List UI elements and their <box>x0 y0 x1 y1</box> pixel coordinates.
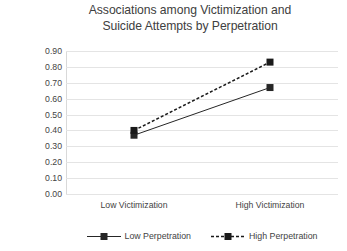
x-axis-tick-label: Low Victimization <box>101 200 168 210</box>
legend-item-2[interactable]: High Perpetration <box>211 232 317 241</box>
dashed-line-marker-icon <box>211 232 245 241</box>
y-axis-tick-label: 0.00 <box>34 189 62 199</box>
y-axis-tick-label: 0.40 <box>34 125 62 135</box>
y-axis-tick-label: 0.10 <box>34 173 62 183</box>
data-point-marker <box>267 84 274 91</box>
chart-title-line-2: Suicide Attempts by Perpetration <box>40 19 340 35</box>
chart-legend: Low PerpetrationHigh Perpetration <box>66 228 338 244</box>
solid-line-marker-icon <box>87 232 121 241</box>
y-axis-tick-label: 0.80 <box>34 62 62 72</box>
data-series-layer <box>66 51 338 194</box>
y-axis-tick-label: 0.60 <box>34 94 62 104</box>
y-axis-tick-label: 0.20 <box>34 157 62 167</box>
series-line-1 <box>134 88 270 136</box>
x-axis-tick-labels: Low VictimizationHigh Victimization <box>66 200 338 214</box>
y-axis-tick-label: 0.30 <box>34 141 62 151</box>
legend-item-1[interactable]: Low Perpetration <box>87 232 192 241</box>
x-axis-tick-label: High Victimization <box>236 200 305 210</box>
chart-title-line-1: Associations among Victimization and <box>40 3 340 19</box>
series-line-2 <box>134 62 270 130</box>
y-axis-tick-label: 0.50 <box>34 110 62 120</box>
y-axis-tick-label: 0.90 <box>34 46 62 56</box>
legend-label: Low Perpetration <box>125 232 192 241</box>
y-axis-title: Suicide Attemps <box>0 76 16 176</box>
gridline <box>66 194 338 195</box>
chart-title: Associations among Victimization and Sui… <box>40 3 340 34</box>
y-axis-tick-labels: 0.900.800.700.600.500.400.300.200.100.00 <box>30 51 62 194</box>
legend-label: High Perpetration <box>249 232 317 241</box>
y-axis-tick-label: 0.70 <box>34 78 62 88</box>
line-chart: Associations among Victimization and Sui… <box>0 0 347 251</box>
data-point-marker <box>131 127 138 134</box>
data-point-marker <box>267 59 274 66</box>
